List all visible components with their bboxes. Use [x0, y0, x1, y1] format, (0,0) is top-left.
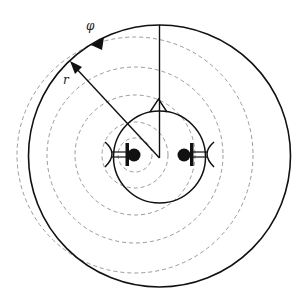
right-ear: [178, 142, 215, 167]
nose-icon: [150, 99, 167, 112]
radius-line: [74, 66, 160, 158]
diagram-canvas: φ r: [0, 0, 301, 295]
left-microphone-dot: [128, 149, 141, 162]
left-ear: [105, 142, 141, 167]
phi-label: φ: [86, 19, 95, 33]
r-label: r: [63, 73, 70, 87]
left-ear-bracket-icon: [105, 142, 112, 167]
right-microphone-bar: [190, 143, 194, 166]
right-microphone-dot: [178, 149, 191, 162]
right-ear-bracket-icon: [207, 142, 214, 167]
